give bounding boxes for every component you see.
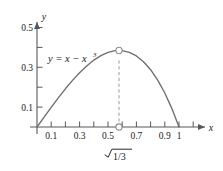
x-tick-label: 0.5 [102, 131, 114, 141]
x-axis-root-marker [116, 124, 122, 130]
max-point-marker [116, 47, 122, 53]
y-tick-labels: 0.1 0.3 0.5 [21, 23, 33, 113]
x-tick-label: 0.1 [45, 131, 57, 141]
x-tick-label: 0.3 [74, 131, 86, 141]
y-tick-label: 0.1 [21, 103, 33, 113]
equation-exponent: 3 [92, 51, 97, 59]
x-tick-label: 1 [177, 131, 182, 141]
y-axis-ticks [37, 28, 43, 108]
y-tick-label: 0.3 [21, 63, 33, 73]
chart-plot: 0.1 0.3 0.5 0.7 0.9 1 0.1 0.3 0.5 x y y … [0, 0, 223, 171]
x-tick-label: 0.7 [130, 131, 142, 141]
y-tick-label: 0.5 [21, 23, 33, 33]
max-x-radicand: 1/3 [113, 151, 126, 162]
max-x-annotation: 1/3 [105, 149, 132, 161]
x-axis-arrow-icon [198, 124, 205, 130]
figure-container: 0.1 0.3 0.5 0.7 0.9 1 0.1 0.3 0.5 x y y … [0, 0, 223, 171]
axes-group [30, 22, 205, 134]
x-tick-labels: 0.1 0.3 0.5 0.7 0.9 1 [45, 131, 181, 141]
y-axis-label: y [41, 11, 47, 22]
x-axis-label: x [208, 122, 214, 133]
equation-label: y = x − x [47, 53, 87, 64]
x-tick-label: 0.9 [159, 131, 171, 141]
equation-annotation: y = x − x 3 [47, 51, 97, 64]
